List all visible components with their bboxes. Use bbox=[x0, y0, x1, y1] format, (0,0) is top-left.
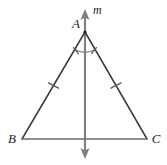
vertex-point-a bbox=[83, 30, 86, 33]
label-vertex-a: A bbox=[71, 16, 80, 31]
tick-side-ac bbox=[111, 83, 121, 88]
label-line-m: m bbox=[93, 3, 102, 17]
label-vertex-c: C bbox=[152, 131, 161, 146]
tick-side-ab bbox=[48, 83, 58, 88]
triangle-diagram-canvas: A B C m bbox=[0, 0, 167, 165]
geometry-figure: A B C m bbox=[0, 0, 167, 165]
label-vertex-b: B bbox=[8, 131, 16, 146]
